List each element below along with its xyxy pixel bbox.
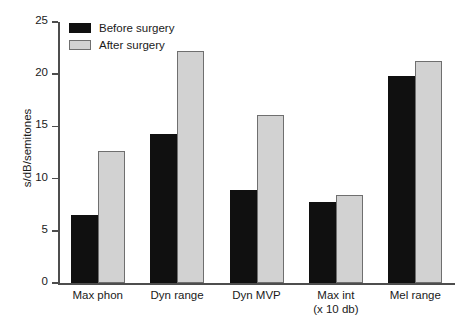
x-axis-label-line: (x 10 db) (281, 302, 391, 316)
bar-after-surgery (257, 115, 284, 283)
bar-before-surgery (388, 76, 415, 283)
legend-swatch-icon (69, 40, 91, 50)
bar-after-surgery (336, 195, 363, 283)
legend-label: After surgery (99, 39, 165, 51)
x-axis-label-line: Max int (317, 289, 354, 301)
y-tick-mark (52, 230, 58, 232)
y-axis-label: s/dB/semitones (21, 88, 33, 208)
y-tick-mark (52, 282, 58, 284)
y-tick-mark (52, 73, 58, 75)
chart-legend: Before surgeryAfter surgery (69, 20, 174, 54)
bar-before-surgery (150, 134, 177, 283)
y-tick-label: 20 (22, 66, 48, 78)
x-axis-label-line: Dyn range (151, 289, 204, 301)
legend-label: Before surgery (99, 22, 174, 34)
y-tick-label: 0 (22, 275, 48, 287)
bar-before-surgery (71, 215, 98, 283)
bar-after-surgery (415, 61, 442, 283)
bar-after-surgery (98, 151, 125, 283)
bar-before-surgery (230, 190, 257, 283)
y-tick-label: 25 (22, 14, 48, 26)
bar-after-surgery (177, 51, 204, 283)
legend-swatch-icon (69, 23, 91, 33)
legend-item: After surgery (69, 37, 174, 53)
x-axis-label-line: Max phon (72, 289, 123, 301)
y-axis-line (58, 22, 60, 283)
bar-before-surgery (309, 202, 336, 283)
x-axis-label-line: Dyn MVP (232, 289, 281, 301)
x-axis-label: Mel range (360, 288, 470, 302)
x-axis-line (58, 283, 455, 285)
x-axis-label-line: Mel range (390, 289, 441, 301)
y-tick-mark (52, 21, 58, 23)
bar-chart-figure: 0510152025 s/dB/semitones Max phonDyn ra… (0, 0, 471, 317)
y-tick-label: 5 (22, 223, 48, 235)
y-tick-mark (52, 126, 58, 128)
legend-item: Before surgery (69, 20, 174, 36)
y-tick-mark (52, 178, 58, 180)
